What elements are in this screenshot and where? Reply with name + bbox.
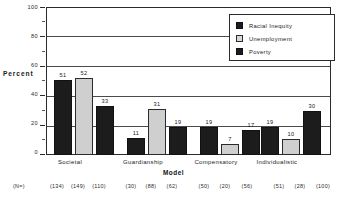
y-major-tick-20 [40, 125, 45, 126]
y-major-tick-0 [40, 154, 45, 155]
bar-guardianship-unemployment [148, 109, 166, 155]
y-tick-label-40: 40 [31, 92, 38, 98]
bar-compensatory-racial-inequity [200, 127, 218, 155]
bar-value-individualistic-unemployment: 10 [282, 132, 300, 138]
y-minor-tick-30 [42, 110, 45, 111]
legend-item-racial-inequity: Racial Inequity [236, 19, 334, 32]
y-axis-title: Percent [3, 70, 34, 77]
n-value-compensatory-unemployment: (20) [214, 183, 236, 189]
n-value-compensatory-poverty: (56) [236, 183, 258, 189]
legend-item-poverty: Poverty [236, 45, 334, 58]
legend-label-poverty: Poverty [249, 49, 271, 55]
bar-group-societal: 51 52 33 [54, 7, 116, 155]
y-minor-tick-10 [42, 139, 45, 140]
bar-guardianship-poverty [169, 127, 187, 155]
y-tick-label-20: 20 [31, 121, 38, 127]
y-tick-label-0: 0 [35, 150, 38, 156]
legend-swatch-icon-poverty [236, 48, 243, 55]
n-value-individualistic-racial-inequity: (51) [268, 183, 290, 189]
n-value-individualistic-unemployment: (28) [289, 183, 311, 189]
legend-label-racial-inequity: Racial Inequity [249, 23, 292, 29]
y-major-tick-60 [40, 66, 45, 67]
legend-label-unemployment: Unemployment [249, 36, 292, 42]
y-minor-tick-50 [42, 80, 45, 81]
bar-guardianship-racial-inequity [127, 138, 145, 155]
bar-value-compensatory-poverty: 17 [242, 123, 260, 129]
bar-compensatory-unemployment [221, 144, 239, 155]
bar-value-individualistic-racial-inequity: 19 [261, 120, 279, 126]
bar-value-compensatory-unemployment: 7 [221, 137, 239, 143]
bar-value-societal-racial-inequity: 51 [54, 73, 72, 79]
y-major-tick-40 [40, 95, 45, 96]
n-value-societal-poverty: (110) [87, 183, 111, 189]
y-tick-label-60: 60 [31, 63, 38, 69]
legend-item-unemployment: Unemployment [236, 32, 334, 45]
bar-value-compensatory-racial-inequity: 19 [200, 120, 218, 126]
bar-societal-racial-inequity [54, 80, 72, 155]
n-value-guardianship-racial-inequity: (30) [120, 183, 142, 189]
bar-group-guardianship: 11 31 19 [127, 7, 189, 155]
y-major-tick-100 [40, 7, 45, 8]
y-tick-label-80: 80 [31, 34, 38, 40]
x-axis-label-societal: Societal [39, 159, 101, 165]
bar-value-societal-poverty: 33 [96, 99, 114, 105]
legend: Racial Inequity Unemployment Poverty [229, 14, 335, 61]
bar-value-individualistic-poverty: 30 [303, 104, 321, 110]
y-minor-tick-90 [42, 21, 45, 22]
y-axis: 100 80 60 40 20 0 Percent [0, 0, 46, 160]
bar-compensatory-poverty [242, 130, 260, 155]
y-tick-label-100: 100 [28, 5, 38, 11]
n-value-guardianship-poverty: (62) [161, 183, 183, 189]
n-value-compensatory-racial-inequity: (50) [193, 183, 215, 189]
x-axis-label-individualistic: Individualistic [246, 159, 308, 165]
x-axis-label-compensatory: Compensatory [185, 159, 247, 165]
legend-swatch-icon-racial-inequity [236, 22, 243, 29]
y-minor-tick-70 [42, 51, 45, 52]
bar-value-guardianship-racial-inequity: 11 [127, 131, 145, 137]
bar-value-societal-unemployment: 52 [75, 71, 93, 77]
bar-chart-figure: 100 80 60 40 20 0 Percent 51 52 [0, 0, 347, 199]
y-major-tick-80 [40, 36, 45, 37]
bar-individualistic-unemployment [282, 139, 300, 155]
bar-societal-unemployment [75, 78, 93, 155]
x-axis-label-guardianship: Guardianship [112, 159, 174, 165]
bar-individualistic-poverty [303, 111, 321, 155]
n-value-individualistic-poverty: (100) [310, 183, 336, 189]
x-axis-title: Model [0, 169, 347, 176]
legend-swatch-icon-unemployment [236, 35, 243, 42]
bar-societal-poverty [96, 106, 114, 155]
bar-individualistic-racial-inequity [261, 127, 279, 155]
bar-value-guardianship-unemployment: 31 [148, 102, 166, 108]
n-value-guardianship-unemployment: (88) [140, 183, 162, 189]
n-row-label: (N=) [13, 183, 25, 189]
bar-value-guardianship-poverty: 19 [169, 120, 187, 126]
